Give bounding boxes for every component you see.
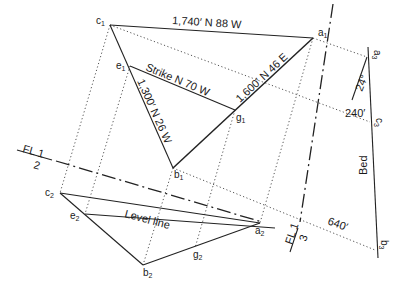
svg-text:a3: a3 (371, 50, 383, 60)
line-labels: 1,740′ N 88 W 1,600′ N 46 E 1,300′ N 26 … (123, 14, 369, 231)
label-c1-a1: 1,740′ N 88 W (172, 14, 243, 30)
fold-line-1-3 (290, 4, 333, 252)
svg-text:e1: e1 (116, 60, 126, 72)
point-labels: c1 a1 e1 g1 b1 c2 e2 g2 b2 a2 a3 c3 b3 (45, 15, 390, 279)
svg-text:e2: e2 (70, 210, 80, 222)
label-a1-b1: 1,600′ N 46 E (233, 50, 290, 104)
svg-text:b1: b1 (174, 169, 184, 181)
svg-text:c3: c3 (373, 118, 385, 127)
label-640: 640′ (326, 215, 349, 233)
three-point-diagram: c1 a1 e1 g1 b1 c2 e2 g2 b2 a2 a3 c3 b3 1… (0, 0, 401, 285)
line-c1-b1 (110, 25, 173, 168)
plan-view-triangle (110, 25, 313, 168)
svg-text:c1: c1 (96, 15, 105, 27)
label-level-line: Level line (123, 207, 171, 231)
fl12-bottom: 2 (32, 158, 41, 171)
svg-text:b2: b2 (143, 267, 153, 279)
label-strike: Strike N 70 W (144, 61, 212, 98)
elevation-labels: 24° 240′ 640′ (326, 73, 370, 233)
fl13-bottom: 3 (296, 233, 309, 243)
svg-text:g2: g2 (193, 249, 203, 261)
label-dip-angle: 24° (353, 73, 370, 93)
svg-text:g1: g1 (236, 112, 246, 124)
fl12-top: FL 1 (21, 142, 45, 159)
svg-text:b3: b3 (378, 240, 390, 250)
svg-text:c2: c2 (45, 187, 54, 199)
line-a1-b1 (173, 38, 313, 168)
label-bed: Bed (357, 155, 369, 175)
label-240: 240′ (345, 107, 365, 119)
label-c1-b1: 1,300′ N 26 W (135, 77, 174, 146)
svg-text:a1: a1 (318, 27, 328, 39)
